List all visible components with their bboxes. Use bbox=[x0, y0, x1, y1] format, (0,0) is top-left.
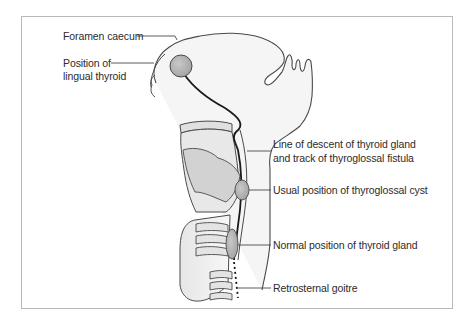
label-line-of-descent-line2: and track of thyroglossal fistula bbox=[273, 152, 414, 165]
label-retrosternal-goitre: Retrosternal goitre bbox=[273, 282, 357, 295]
label-normal-thyroid: Normal position of thyroid gland bbox=[273, 239, 417, 252]
normal-thyroid-gland bbox=[226, 229, 238, 259]
retrosternal-dotted-track bbox=[234, 262, 238, 298]
label-line-of-descent-line1: Line of descent of thyroid gland bbox=[273, 138, 416, 151]
label-thyroglossal-cyst: Usual position of thyroglossal cyst bbox=[273, 184, 428, 197]
label-foramen-caecum: Foramen caecum bbox=[63, 30, 143, 43]
label-lingual-thyroid-line1: Position of bbox=[63, 57, 111, 70]
label-lingual-thyroid-line2: lingual thyroid bbox=[63, 70, 126, 83]
lingual-thyroid-gland bbox=[170, 55, 192, 77]
thyroglossal-cyst bbox=[235, 180, 249, 200]
